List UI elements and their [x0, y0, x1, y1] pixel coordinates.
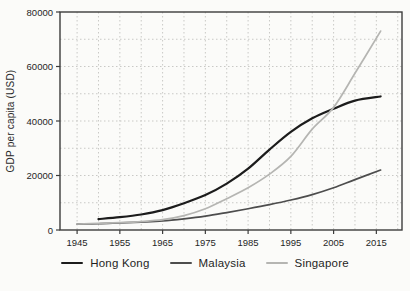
y-tick-label: 0	[48, 225, 53, 236]
x-tick-label: 1985	[238, 237, 259, 248]
x-tick-label: 1995	[280, 237, 301, 248]
x-tick-label: 1965	[152, 237, 173, 248]
gdp-line-chart-figure: GDP per capita (USD) 0200004000060000800…	[0, 0, 410, 291]
plot-area: 0200004000060000800001945195519651975198…	[0, 0, 410, 291]
x-tick-label: 2015	[366, 237, 387, 248]
y-tick-label: 80000	[27, 7, 53, 18]
legend-item-malaysia: Malaysia	[170, 257, 246, 269]
singapore-line	[77, 31, 381, 224]
legend-label-hong-kong: Hong Kong	[90, 257, 149, 269]
legend-item-hong-kong: Hong Kong	[61, 257, 149, 269]
legend-label-singapore: Singapore	[295, 257, 349, 269]
legend: Hong Kong Malaysia Singapore	[0, 257, 410, 269]
singapore-line-swatch	[266, 262, 288, 264]
x-tick-label: 1975	[195, 237, 216, 248]
y-tick-label: 60000	[27, 61, 53, 72]
malaysia-line-swatch	[170, 262, 192, 264]
y-tick-label: 40000	[27, 116, 53, 127]
hong-kong-line-swatch	[61, 262, 83, 264]
x-tick-label: 2005	[323, 237, 344, 248]
y-tick-label: 20000	[27, 170, 53, 181]
legend-item-singapore: Singapore	[266, 257, 349, 269]
x-tick-label: 1945	[67, 237, 88, 248]
x-tick-label: 1955	[109, 237, 130, 248]
legend-label-malaysia: Malaysia	[199, 257, 246, 269]
